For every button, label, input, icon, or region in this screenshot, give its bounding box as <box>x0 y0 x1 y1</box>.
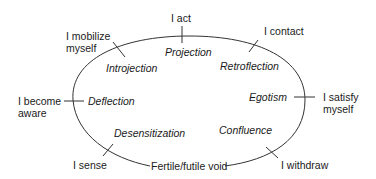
label-i-mobilize-line2: myself <box>66 42 96 54</box>
label-deflection: Deflection <box>88 95 135 107</box>
label-i-contact: I contact <box>264 25 304 37</box>
tick-mobilize <box>113 42 125 57</box>
tick-sense <box>103 144 113 156</box>
cycle-diagram <box>0 0 376 179</box>
label-i-sense: I sense <box>73 159 107 171</box>
label-i-mobilize-line1: I mobilize <box>66 30 110 42</box>
tick-withdraw <box>266 147 278 158</box>
label-confluence: Confluence <box>219 124 272 136</box>
label-i-act: I act <box>171 12 191 24</box>
label-i-become-line2: aware <box>18 107 47 119</box>
label-projection: Projection <box>165 46 212 58</box>
label-i-become-line1: I become <box>18 95 61 107</box>
label-i-satisfy-line2: myself <box>323 103 353 115</box>
label-fertile-futile-void: Fertile/futile void <box>151 160 227 172</box>
label-i-withdraw: I withdraw <box>281 159 328 171</box>
label-egotism: Egotism <box>249 91 287 103</box>
label-i-satisfy-line1: I satisfy <box>323 91 359 103</box>
label-desensitization: Desensitization <box>114 127 185 139</box>
label-retroflection: Retroflection <box>220 60 279 72</box>
label-introjection: Introjection <box>106 62 157 74</box>
